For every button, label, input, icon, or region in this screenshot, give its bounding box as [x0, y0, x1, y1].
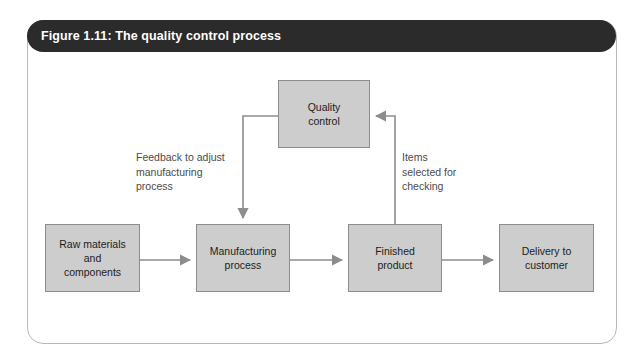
figure-card: [27, 20, 617, 344]
node-raw-materials: Raw materials and components: [45, 224, 140, 292]
node-manufacturing-process: Manufacturing process: [196, 224, 290, 292]
node-raw-materials-label: Raw materials and components: [59, 237, 126, 279]
figure-title: Figure 1.11: The quality control process: [27, 29, 281, 43]
feedback-annotation: Feedback to adjust manufacturing process: [136, 150, 225, 194]
node-delivery-to-customer: Delivery to customer: [499, 224, 594, 292]
node-manufacturing-process-label: Manufacturing process: [210, 244, 277, 272]
node-quality-control-label: Quality control: [308, 100, 341, 128]
node-delivery-to-customer-label: Delivery to customer: [522, 244, 572, 272]
items-annotation: Items selected for checking: [402, 150, 456, 194]
node-quality-control: Quality control: [278, 80, 370, 148]
figure-title-bar: Figure 1.11: The quality control process: [27, 20, 616, 52]
node-finished-product: Finished product: [348, 224, 442, 292]
node-finished-product-label: Finished product: [375, 244, 415, 272]
